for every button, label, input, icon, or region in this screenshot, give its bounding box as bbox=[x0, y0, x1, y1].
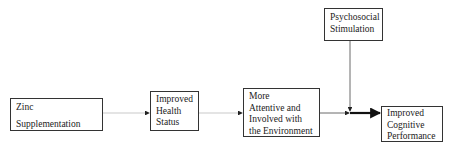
node-zinc-supplementation: Zinc Supplementation bbox=[10, 98, 103, 131]
node-label-line: Involved with bbox=[249, 114, 314, 126]
node-label-line: Status bbox=[156, 117, 193, 129]
node-label-line: Improved bbox=[156, 94, 193, 106]
node-psychosocial-stimulation: Psychosocial Stimulation bbox=[324, 8, 383, 41]
node-label-line: Cognitive bbox=[387, 120, 437, 132]
node-label-line: Psychosocial bbox=[330, 12, 377, 24]
node-more-attentive: More Attentive and Involved with the Env… bbox=[243, 88, 320, 137]
node-label-line: More bbox=[249, 91, 314, 103]
node-label-line: Zinc bbox=[16, 102, 97, 114]
node-label-line: Attentive and bbox=[249, 103, 314, 115]
node-improved-cognitive-performance: Improved Cognitive Performance bbox=[381, 106, 443, 142]
node-label-line: Improved bbox=[387, 108, 437, 120]
node-label-line: Health bbox=[156, 106, 193, 118]
node-improved-health-status: Improved Health Status bbox=[150, 91, 199, 131]
node-label-line: the Environment bbox=[249, 126, 314, 138]
node-label-line: Supplementation bbox=[16, 119, 97, 131]
node-label-line: Stimulation bbox=[330, 24, 377, 36]
node-label-line: Performance bbox=[387, 131, 437, 143]
